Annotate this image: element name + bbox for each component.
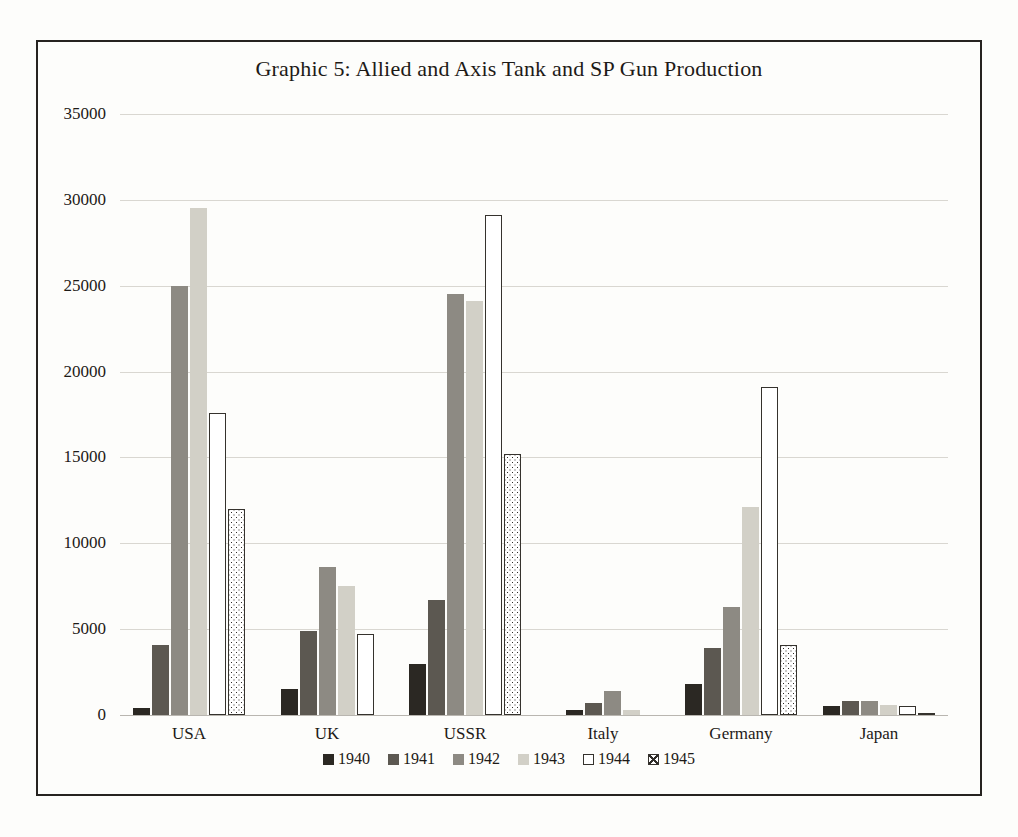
bar-italy-1943[interactable] (623, 710, 640, 715)
legend-label: 1940 (338, 750, 370, 768)
category-label: USA (120, 724, 258, 744)
bar-uk-1941[interactable] (300, 631, 317, 715)
bar-group: Germany (672, 114, 810, 715)
chart-frame: Graphic 5: Allied and Axis Tank and SP G… (36, 40, 982, 796)
plot-area: 35000300002500020000150001000050000 USAU… (120, 114, 948, 715)
legend-label: 1941 (403, 750, 435, 768)
bar-uk-1944[interactable] (357, 634, 374, 715)
bar-ussr-1942[interactable] (447, 294, 464, 715)
y-axis-tick-label: 15000 (64, 447, 107, 467)
bar-group: USA (120, 114, 258, 715)
bar-italy-1942[interactable] (604, 691, 621, 715)
bar-germany-1942[interactable] (723, 607, 740, 715)
bar-uk-1943[interactable] (338, 586, 355, 715)
bar-germany-1945[interactable] (780, 645, 797, 715)
bar-usa-1940[interactable] (133, 708, 150, 715)
y-axis-tick-label: 20000 (64, 362, 107, 382)
category-label: Italy (534, 724, 672, 744)
bar-usa-1944[interactable] (209, 413, 226, 715)
bar-group: Italy (534, 114, 672, 715)
bar-group: Japan (810, 114, 948, 715)
y-axis-tick-label: 35000 (64, 104, 107, 124)
bar-germany-1944[interactable] (761, 387, 778, 715)
legend-swatch-icon (323, 754, 334, 765)
bars (672, 114, 810, 715)
bar-usa-1942[interactable] (171, 286, 188, 715)
y-axis-tick-label: 30000 (64, 190, 107, 210)
bars (396, 114, 534, 715)
bar-usa-1945[interactable] (228, 509, 245, 715)
bar-italy-1941[interactable] (585, 703, 602, 715)
bar-ussr-1943[interactable] (466, 301, 483, 715)
legend-swatch-icon (453, 754, 464, 765)
bar-germany-1943[interactable] (742, 507, 759, 715)
legend-swatch-icon (583, 754, 594, 765)
category-label: Japan (810, 724, 948, 744)
bar-group: UK (258, 114, 396, 715)
legend-item-1941[interactable]: 1941 (388, 750, 435, 768)
bar-ussr-1941[interactable] (428, 600, 445, 715)
category-label: USSR (396, 724, 534, 744)
bar-usa-1943[interactable] (190, 208, 207, 715)
y-axis-tick-label: 0 (98, 705, 107, 725)
bar-japan-1943[interactable] (880, 705, 897, 715)
legend-label: 1944 (598, 750, 630, 768)
category-label: Germany (672, 724, 810, 744)
y-axis-tick-label: 5000 (72, 619, 106, 639)
category-label: UK (258, 724, 396, 744)
bar-japan-1945[interactable] (918, 713, 935, 715)
bar-japan-1942[interactable] (861, 701, 878, 715)
page: Graphic 5: Allied and Axis Tank and SP G… (0, 0, 1018, 837)
legend-swatch-icon (518, 754, 529, 765)
bar-uk-1940[interactable] (281, 689, 298, 715)
legend-item-1940[interactable]: 1940 (323, 750, 370, 768)
chart-legend: 194019411942194319441945 (38, 750, 980, 768)
legend-swatch-icon (388, 754, 399, 765)
gridline (120, 715, 948, 716)
legend-swatch-icon (648, 754, 659, 765)
bar-uk-1942[interactable] (319, 567, 336, 715)
y-axis-tick-label: 10000 (64, 533, 107, 553)
bar-ussr-1944[interactable] (485, 215, 502, 715)
bar-japan-1940[interactable] (823, 706, 840, 715)
bar-germany-1941[interactable] (704, 648, 721, 715)
legend-item-1943[interactable]: 1943 (518, 750, 565, 768)
bars (120, 114, 258, 715)
chart-title: Graphic 5: Allied and Axis Tank and SP G… (38, 56, 980, 82)
bar-usa-1941[interactable] (152, 645, 169, 715)
bar-ussr-1940[interactable] (409, 664, 426, 716)
legend-label: 1943 (533, 750, 565, 768)
legend-item-1945[interactable]: 1945 (648, 750, 695, 768)
bar-italy-1940[interactable] (566, 710, 583, 715)
legend-item-1944[interactable]: 1944 (583, 750, 630, 768)
bars (810, 114, 948, 715)
bars (534, 114, 672, 715)
bar-groups: USAUKUSSRItalyGermanyJapan (120, 114, 948, 715)
bar-japan-1944[interactable] (899, 706, 916, 715)
bar-group: USSR (396, 114, 534, 715)
y-axis-tick-label: 25000 (64, 276, 107, 296)
bar-ussr-1945[interactable] (504, 454, 521, 715)
bar-germany-1940[interactable] (685, 684, 702, 715)
bar-japan-1941[interactable] (842, 701, 859, 715)
legend-label: 1945 (663, 750, 695, 768)
legend-item-1942[interactable]: 1942 (453, 750, 500, 768)
bars (258, 114, 396, 715)
legend-label: 1942 (468, 750, 500, 768)
